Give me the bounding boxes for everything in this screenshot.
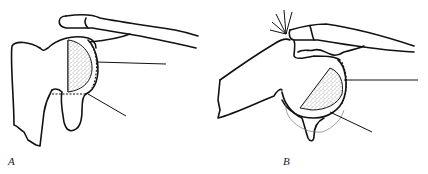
shoulder-diagram-a — [0, 0, 214, 174]
panel-label-a: A — [8, 155, 15, 167]
shoulder-diagram-b — [214, 0, 428, 174]
panel-a: A — [0, 0, 214, 174]
panel-label-b: B — [283, 155, 290, 167]
panel-b: B — [214, 0, 428, 174]
